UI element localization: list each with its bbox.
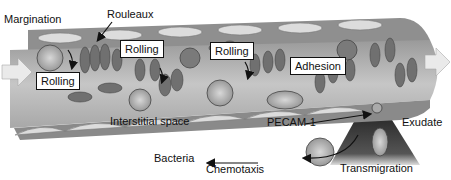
label-transmigration: Transmigration xyxy=(340,163,413,174)
stage-box-rolling-3: Rolling xyxy=(210,42,254,60)
label-margination: Margination xyxy=(4,14,61,25)
label-chemotaxis: Chemotaxis xyxy=(206,164,264,175)
stage-box-adhesion: Adhesion xyxy=(290,57,346,75)
label-pecam-1: PECAM-1 xyxy=(267,117,316,128)
label-exudate: Exudate xyxy=(402,117,442,128)
stage-box-rolling-2: Rolling xyxy=(36,72,80,90)
diagram: Margination Rouleaux Rolling Rolling Rol… xyxy=(0,0,451,180)
stage-box-rolling-1: Rolling xyxy=(120,40,164,58)
label-bacteria: Bacteria xyxy=(154,153,194,164)
label-rouleaux: Rouleaux xyxy=(107,9,153,20)
migrated-leukocyte xyxy=(306,138,334,166)
label-interstitial-space: Interstitial space xyxy=(110,116,189,127)
